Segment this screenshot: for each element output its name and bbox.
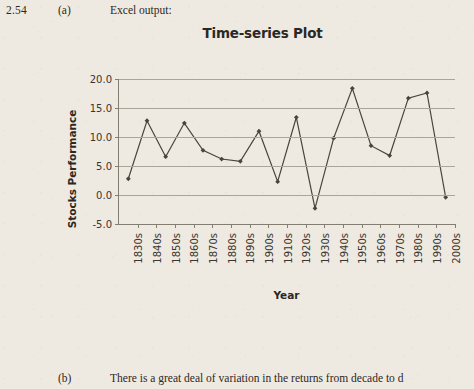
- y-axis-title: Stocks Performance: [65, 96, 79, 242]
- x-axis-tick: [175, 224, 176, 228]
- data-point-marker: [219, 157, 224, 162]
- x-axis-tick: [324, 224, 325, 228]
- gridline: [119, 108, 455, 109]
- gridline: [119, 137, 455, 138]
- x-axis-tick: [455, 224, 456, 228]
- data-point-marker: [126, 176, 131, 181]
- x-axis-tick: [306, 224, 307, 228]
- x-axis-title: Year: [118, 289, 455, 301]
- x-axis-tick-label: 1960s: [376, 233, 387, 264]
- series-line-chart: [119, 79, 455, 224]
- data-point-marker: [313, 206, 318, 211]
- data-point-marker: [425, 91, 430, 96]
- y-axis-tick: [115, 108, 119, 109]
- x-axis-tick-label: 1930s: [320, 233, 331, 264]
- x-axis-tick-label: 1910s: [283, 233, 294, 264]
- x-axis-tick: [212, 224, 213, 228]
- x-axis-tick-label: 1940s: [339, 233, 350, 264]
- x-axis-tick-label: 1970s: [395, 233, 406, 264]
- x-axis-tick-label: 1980s: [413, 233, 424, 264]
- x-axis-tick: [436, 224, 437, 228]
- x-axis-tick: [399, 224, 400, 228]
- x-axis-tick: [138, 224, 139, 228]
- x-axis-tick-label: 1890s: [245, 233, 256, 264]
- x-axis-tick-label: 2000s: [451, 233, 462, 264]
- x-axis-tick: [362, 224, 363, 228]
- y-axis-title-text: Stocks Performance: [66, 110, 78, 229]
- x-axis-tick: [380, 224, 381, 228]
- data-point-marker: [387, 153, 392, 158]
- part-b-label: (b): [58, 372, 71, 384]
- y-axis-tick-label: 15.0: [90, 103, 112, 114]
- series-line: [128, 88, 445, 208]
- x-axis-tick-label: 1920s: [301, 233, 312, 264]
- y-axis-tick-label: 10.0: [90, 132, 112, 143]
- y-axis-tick: [115, 79, 119, 80]
- y-axis-tick-label: 0.0: [96, 190, 112, 201]
- x-axis-tick: [268, 224, 269, 228]
- question-number: 2.54: [6, 4, 27, 16]
- excel-chart-container: Time-series Plot Stocks Performance 20.0…: [53, 17, 472, 362]
- x-axis-tick: [156, 224, 157, 228]
- y-axis-tick: [115, 195, 119, 196]
- x-axis-tick-label: 1950s: [357, 233, 368, 264]
- x-axis-tick: [418, 224, 419, 228]
- data-point-marker: [294, 115, 299, 120]
- plot-area: 20.015.010.05.00.0-5.01830s1840s1850s186…: [118, 79, 455, 225]
- data-point-marker: [145, 118, 150, 123]
- gridline: [119, 79, 455, 80]
- y-axis-tick-label: 20.0: [90, 74, 112, 85]
- gridline: [119, 195, 455, 196]
- part-b-text: There is a great deal of variation in th…: [110, 372, 403, 384]
- x-axis-tick-label: 1990s: [432, 233, 443, 264]
- data-point-marker: [275, 179, 280, 184]
- part-a-label: (a): [58, 4, 71, 16]
- x-axis-tick-label: 1900s: [264, 233, 275, 264]
- x-axis-tick-label: 1860s: [189, 233, 200, 264]
- x-axis-tick-label: 1850s: [171, 233, 182, 264]
- data-point-marker: [369, 143, 374, 148]
- y-axis-tick: [115, 224, 119, 225]
- data-point-marker: [163, 154, 168, 159]
- x-axis-tick: [287, 224, 288, 228]
- y-axis-tick: [115, 166, 119, 167]
- data-point-marker: [350, 86, 355, 91]
- x-axis-tick: [231, 224, 232, 228]
- gridline: [119, 166, 455, 167]
- y-axis-tick-label: -5.0: [92, 219, 112, 230]
- y-axis-tick-label: 5.0: [96, 161, 112, 172]
- x-axis-tick-label: 1840s: [152, 233, 163, 264]
- x-axis-tick-label: 1880s: [227, 233, 238, 264]
- part-a-text: Excel output:: [110, 4, 172, 16]
- x-axis-tick-label: 1830s: [133, 233, 144, 264]
- x-axis-tick: [343, 224, 344, 228]
- chart-title: Time-series Plot: [53, 25, 472, 41]
- y-axis-tick: [115, 137, 119, 138]
- data-point-marker: [406, 96, 411, 101]
- x-axis-tick: [194, 224, 195, 228]
- x-axis-tick-label: 1870s: [208, 233, 219, 264]
- x-axis-tick: [250, 224, 251, 228]
